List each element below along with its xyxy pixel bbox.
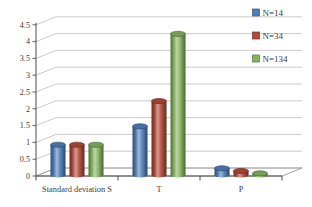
legend-item: N=134 [253,54,289,64]
gridline [36,67,302,75]
y-axis-tick-label: 2.5 [20,88,30,97]
bar-top-cap [152,98,167,103]
bar-top-cap [51,142,66,147]
y-axis-tick-label: 4.5 [20,21,30,30]
bar-top-cap [89,142,104,147]
legend-swatch [253,32,260,39]
cylinder-bar-chart: 00.511.522.533.544.5Standard deviation S… [0,0,312,207]
bar-body [70,145,85,175]
legend-swatch [253,55,260,62]
bar-cylinder [89,142,104,177]
legend-label: N=14 [263,8,284,18]
gridline [36,118,302,126]
bar-body [51,145,66,175]
gridline [36,17,302,25]
category-label: P [239,185,244,194]
bar-cylinder [234,168,249,177]
y-axis-tick-label: 0 [26,172,30,181]
y-axis-tick-label: 1.5 [20,121,30,130]
bar-top-cap [253,171,268,176]
y-axis-tick-label: 0.5 [20,155,30,164]
gridline [36,84,302,92]
bar-cylinder [253,171,268,178]
y-axis-tick-label: 2 [26,105,30,114]
category-label: T [156,185,161,194]
category-label: Standard deviation S [42,185,112,194]
legend-swatch [253,9,260,16]
legend-item: N=14 [253,8,284,18]
bar-body [152,101,167,175]
chart-canvas: 00.511.522.533.544.5Standard deviation S… [0,0,312,207]
bar-cylinder [171,31,186,177]
bar-body [89,145,104,175]
bar-top-cap [133,124,148,129]
bar-top-cap [171,31,186,36]
bar-cylinder [152,98,167,177]
gridline [36,101,302,109]
bar-top-cap [215,166,230,171]
bar-cylinder [70,142,85,177]
bar-body [171,34,186,175]
y-axis-tick-label: 3 [26,71,30,80]
bar-cylinder [133,124,148,178]
legend-label: N=34 [263,31,284,41]
y-axis-tick-label: 1 [26,138,30,147]
y-axis-tick-label: 3.5 [20,54,30,63]
bar-body [133,126,148,175]
bar-top-cap [70,142,85,147]
legend-label: N=134 [263,54,289,64]
bar-top-cap [234,168,249,173]
bar-cylinder [215,166,230,178]
bar-cylinder [51,142,66,177]
gridline [36,134,302,142]
legend-item: N=34 [253,31,284,41]
y-axis-tick-label: 4 [26,37,30,46]
